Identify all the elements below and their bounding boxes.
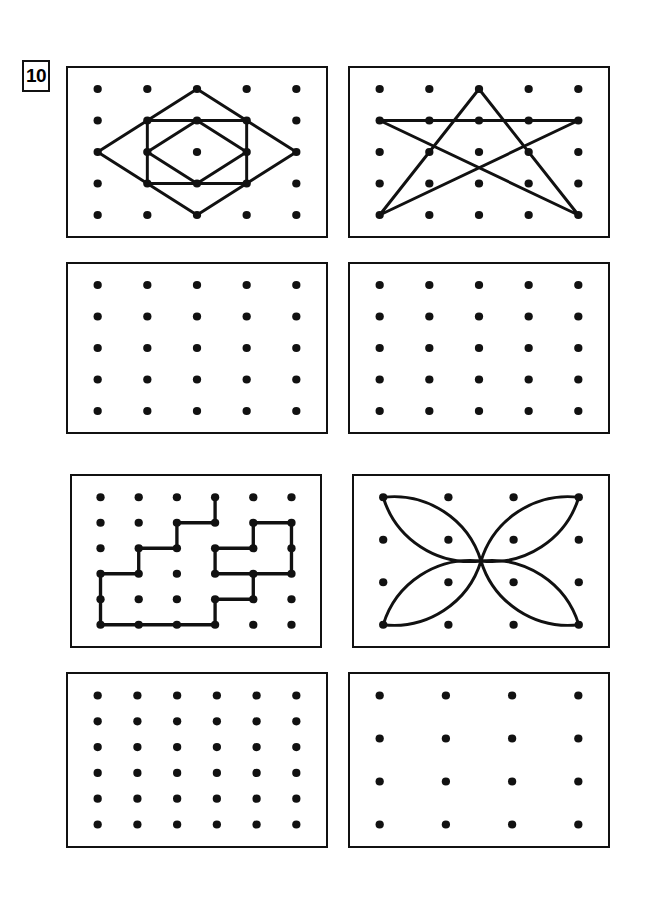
grid-dot [243, 179, 251, 187]
grid-dot [292, 407, 300, 415]
grid-dot [574, 691, 582, 699]
grid-dot [475, 344, 483, 352]
grid-dot [574, 85, 582, 93]
grid-dot [252, 691, 260, 699]
grid-dot [444, 578, 452, 586]
grid-dot [94, 211, 102, 219]
four-petal-flower-figure-figure [383, 497, 579, 626]
grid-dot [525, 375, 533, 383]
grid-dot [193, 312, 201, 320]
grid-dot [509, 536, 517, 544]
grid-dot [252, 743, 260, 751]
grid-dot [292, 820, 300, 828]
grid-dot [193, 344, 201, 352]
grid-dot [287, 595, 295, 603]
grid-dot [143, 211, 151, 219]
grid-dot [444, 536, 452, 544]
five-point-star-figure-canvas [350, 68, 608, 236]
grid-dot [376, 211, 384, 219]
grid-dot [425, 85, 433, 93]
grid-dot [425, 375, 433, 383]
grid-dot [243, 312, 251, 320]
grid-dot [525, 211, 533, 219]
grid-dot [376, 777, 384, 785]
grid-dot [287, 570, 295, 578]
blank-grid-6x6-left[interactable] [66, 672, 328, 848]
worksheet-page: 10 [0, 0, 648, 906]
grid-dot [287, 544, 295, 552]
grid-dot [376, 691, 384, 699]
grid-dot [133, 717, 141, 725]
grid-dot [252, 769, 260, 777]
grid-dot [243, 407, 251, 415]
grid-dot [425, 312, 433, 320]
grid-dot [211, 519, 219, 527]
grid-dot [94, 179, 102, 187]
grid-dot [249, 570, 257, 578]
grid-dot [94, 691, 102, 699]
blank-grid-5x5-right[interactable] [348, 262, 610, 434]
blank-grid-4x4-right-canvas [350, 674, 608, 846]
blank-grid-4x4-right[interactable] [348, 672, 610, 848]
grid-dot [193, 211, 201, 219]
staircase-zigzag-figure[interactable] [70, 474, 322, 648]
grid-dot [525, 148, 533, 156]
grid-dot [94, 820, 102, 828]
grid-dot [525, 179, 533, 187]
grid-dot [133, 691, 141, 699]
grid-dot [574, 820, 582, 828]
grid-dot [525, 281, 533, 289]
grid-dot [574, 312, 582, 320]
staircase-zigzag-figure-dots [96, 493, 295, 629]
grid-dot [173, 820, 181, 828]
grid-dot [376, 148, 384, 156]
grid-dot [193, 407, 201, 415]
grid-dot [425, 211, 433, 219]
grid-dot [475, 148, 483, 156]
grid-dot [135, 595, 143, 603]
staircase-zigzag-figure-canvas [72, 476, 320, 646]
grid-dot [135, 493, 143, 501]
grid-dot [574, 116, 582, 124]
grid-dot [509, 578, 517, 586]
grid-dot [425, 148, 433, 156]
grid-dot [193, 85, 201, 93]
exercise-number-badge: 10 [22, 60, 50, 92]
grid-dot [376, 85, 384, 93]
grid-dot [135, 519, 143, 527]
grid-dot [96, 519, 104, 527]
five-point-star-figure[interactable] [348, 66, 610, 238]
grid-dot [292, 312, 300, 320]
four-petal-flower-figure[interactable] [352, 474, 610, 648]
grid-dot [243, 85, 251, 93]
grid-dot [143, 281, 151, 289]
grid-dot [96, 621, 104, 629]
nested-squares-diamond-figure[interactable] [66, 66, 328, 238]
grid-dot [525, 312, 533, 320]
grid-dot [143, 85, 151, 93]
petal-bottom-left [383, 560, 481, 625]
grid-dot [525, 85, 533, 93]
blank-grid-5x5-left[interactable] [66, 262, 328, 434]
grid-dot [173, 795, 181, 803]
grid-dot [425, 179, 433, 187]
grid-dot [143, 344, 151, 352]
grid-dot [376, 281, 384, 289]
grid-dot [143, 148, 151, 156]
grid-dot [525, 407, 533, 415]
grid-dot [133, 769, 141, 777]
grid-dot [193, 148, 201, 156]
grid-dot [94, 312, 102, 320]
blank-grid-5x5-left-canvas [68, 264, 326, 432]
grid-dot [574, 407, 582, 415]
grid-dot [133, 820, 141, 828]
grid-dot [173, 717, 181, 725]
grid-dot [475, 85, 483, 93]
grid-dot [252, 717, 260, 725]
grid-dot [193, 116, 201, 124]
grid-dot [292, 148, 300, 156]
grid-dot [376, 344, 384, 352]
grid-dot [376, 179, 384, 187]
grid-dot [292, 717, 300, 725]
grid-dot [574, 179, 582, 187]
